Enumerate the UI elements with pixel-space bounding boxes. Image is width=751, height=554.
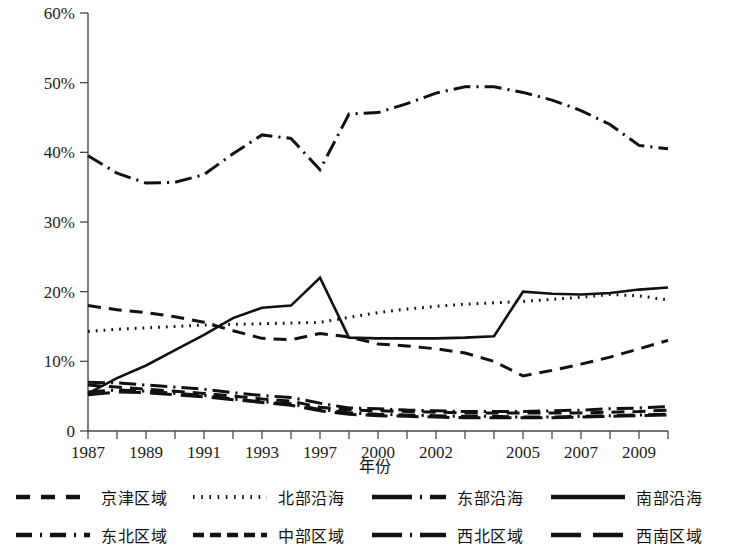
- legend-label: 中部区域: [278, 523, 344, 547]
- series-line: [88, 294, 668, 331]
- legend-item-beibu-yanhai[interactable]: 北部沿海: [191, 485, 344, 509]
- legend-label: 西北区域: [457, 523, 523, 547]
- legend-item-xibei[interactable]: 西北区域: [370, 523, 523, 547]
- legend-item-zhongbu[interactable]: 中部区域: [191, 523, 344, 547]
- x-axis-ticks: [88, 431, 668, 439]
- x-tick-label: 1987: [71, 443, 106, 462]
- x-tick-label: 2005: [506, 443, 540, 462]
- legend-swatch-dotted-icon: [191, 490, 269, 504]
- x-tick-label: 2002: [419, 443, 453, 462]
- line-chart: 010%20%30%40%50%60% 19871989199119931997…: [0, 0, 751, 554]
- legend-label: 西南区域: [636, 523, 702, 547]
- legend-item-nanbu-yanhai[interactable]: 南部沿海: [549, 485, 702, 509]
- y-tick-label: 20%: [44, 283, 75, 302]
- y-tick-label: 0: [67, 422, 76, 441]
- legend-swatch-solid-icon: [549, 490, 627, 504]
- legend-swatch-dashed-icon: [191, 528, 269, 542]
- y-axis-ticks: [80, 13, 88, 431]
- legend-label: 京津区域: [101, 485, 167, 509]
- chart-legend: 京津区域 北部沿海 东部沿海 南部沿海 东北区域 中部区域: [0, 478, 751, 554]
- y-tick-label: 40%: [44, 143, 75, 162]
- legend-row-2: 东北区域 中部区域 西北区域 西南区域: [0, 516, 751, 554]
- legend-item-dongbei[interactable]: 东北区域: [14, 523, 167, 547]
- y-axis-tick-labels: 010%20%30%40%50%60%: [44, 4, 75, 441]
- x-tick-label: 2009: [622, 443, 656, 462]
- y-tick-label: 30%: [44, 213, 75, 232]
- x-tick-label: 2007: [564, 443, 599, 462]
- x-tick-label: 1993: [245, 443, 279, 462]
- chart-plot-area: 010%20%30%40%50%60% 19871989199119931997…: [0, 0, 751, 480]
- legend-item-jingjin[interactable]: 京津区域: [14, 485, 167, 509]
- legend-item-xinan[interactable]: 西南区域: [549, 523, 702, 547]
- chart-series-lines: [88, 87, 668, 418]
- legend-item-dongbu-yanhai[interactable]: 东部沿海: [370, 485, 523, 509]
- legend-label: 东部沿海: [457, 485, 523, 509]
- series-line: [88, 382, 668, 411]
- legend-swatch-dashdot-icon: [14, 528, 92, 542]
- legend-swatch-dashed-icon: [14, 490, 92, 504]
- legend-swatch-dashdot-icon: [370, 490, 448, 504]
- x-tick-label: 1989: [129, 443, 163, 462]
- legend-label: 东北区域: [101, 523, 167, 547]
- y-tick-label: 50%: [44, 74, 75, 93]
- x-axis-title: 年份: [359, 457, 391, 476]
- legend-label: 北部沿海: [278, 485, 344, 509]
- chart-axes: [88, 13, 668, 431]
- series-line: [88, 87, 668, 183]
- x-tick-label: 1997: [303, 443, 338, 462]
- x-tick-label: 1991: [187, 443, 221, 462]
- legend-swatch-dashdot-icon: [370, 528, 448, 542]
- legend-label: 南部沿海: [636, 485, 702, 509]
- legend-swatch-longdash-icon: [549, 528, 627, 542]
- legend-row-1: 京津区域 北部沿海 东部沿海 南部沿海: [0, 478, 751, 516]
- series-line: [88, 278, 668, 394]
- series-line: [88, 306, 668, 376]
- y-tick-label: 60%: [44, 4, 75, 23]
- y-tick-label: 10%: [44, 352, 75, 371]
